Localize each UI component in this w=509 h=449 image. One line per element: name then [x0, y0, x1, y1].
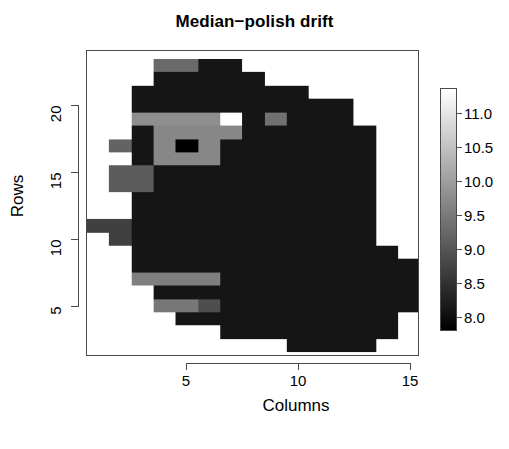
colorbar-label-9.5: 9.5	[464, 207, 485, 224]
y-axis-line	[78, 105, 79, 307]
colorbar-label-8.0: 8.0	[464, 309, 485, 326]
x-tick-label-10: 10	[268, 372, 328, 389]
colorbar-tick-mark-11.0	[457, 113, 462, 114]
y-tick-mark-20	[71, 105, 78, 106]
colorbar-tick-mark-10.5	[457, 147, 462, 148]
y-tick-mark-10	[71, 239, 78, 240]
x-tick-mark-5	[186, 363, 187, 370]
colorbar-label-9.0: 9.0	[464, 241, 485, 258]
colorbar-tick-mark-8.0	[457, 317, 462, 318]
colorbar-tick-mark-10.0	[457, 181, 462, 182]
y-axis-title: Rows	[8, 116, 28, 276]
colorbar-label-10.0: 10.0	[464, 173, 493, 190]
colorbar-gradient	[440, 88, 457, 331]
y-tick-mark-5	[71, 306, 78, 307]
colorbar-tick-mark-9.0	[457, 249, 462, 250]
y-tick-mark-15	[71, 172, 78, 173]
chart-figure: Median−polish drift 5 10 15 20 5 10 15 R…	[0, 0, 509, 449]
colorbar-tick-mark-9.5	[457, 215, 462, 216]
x-tick-mark-10	[298, 363, 299, 370]
y-tick-label-20: 20	[47, 106, 64, 174]
page-title: Median−polish drift	[0, 12, 509, 32]
heatmap-plot-panel[interactable]	[86, 50, 419, 356]
colorbar-label-11.0: 11.0	[464, 105, 492, 122]
colorbar-label-10.5: 10.5	[464, 139, 493, 156]
colorbar-tick-mark-8.5	[457, 283, 462, 284]
x-tick-mark-15	[410, 363, 411, 370]
y-tick-label-10: 10	[47, 240, 64, 308]
y-tick-label-15: 15	[47, 173, 64, 241]
x-tick-label-15: 15	[380, 372, 440, 389]
colorbar	[440, 88, 457, 331]
colorbar-label-8.5: 8.5	[464, 275, 485, 292]
x-tick-label-5: 5	[156, 372, 216, 389]
y-tick-label-5: 5	[47, 307, 64, 375]
heatmap-image	[87, 51, 418, 355]
x-axis-title: Columns	[146, 396, 446, 416]
